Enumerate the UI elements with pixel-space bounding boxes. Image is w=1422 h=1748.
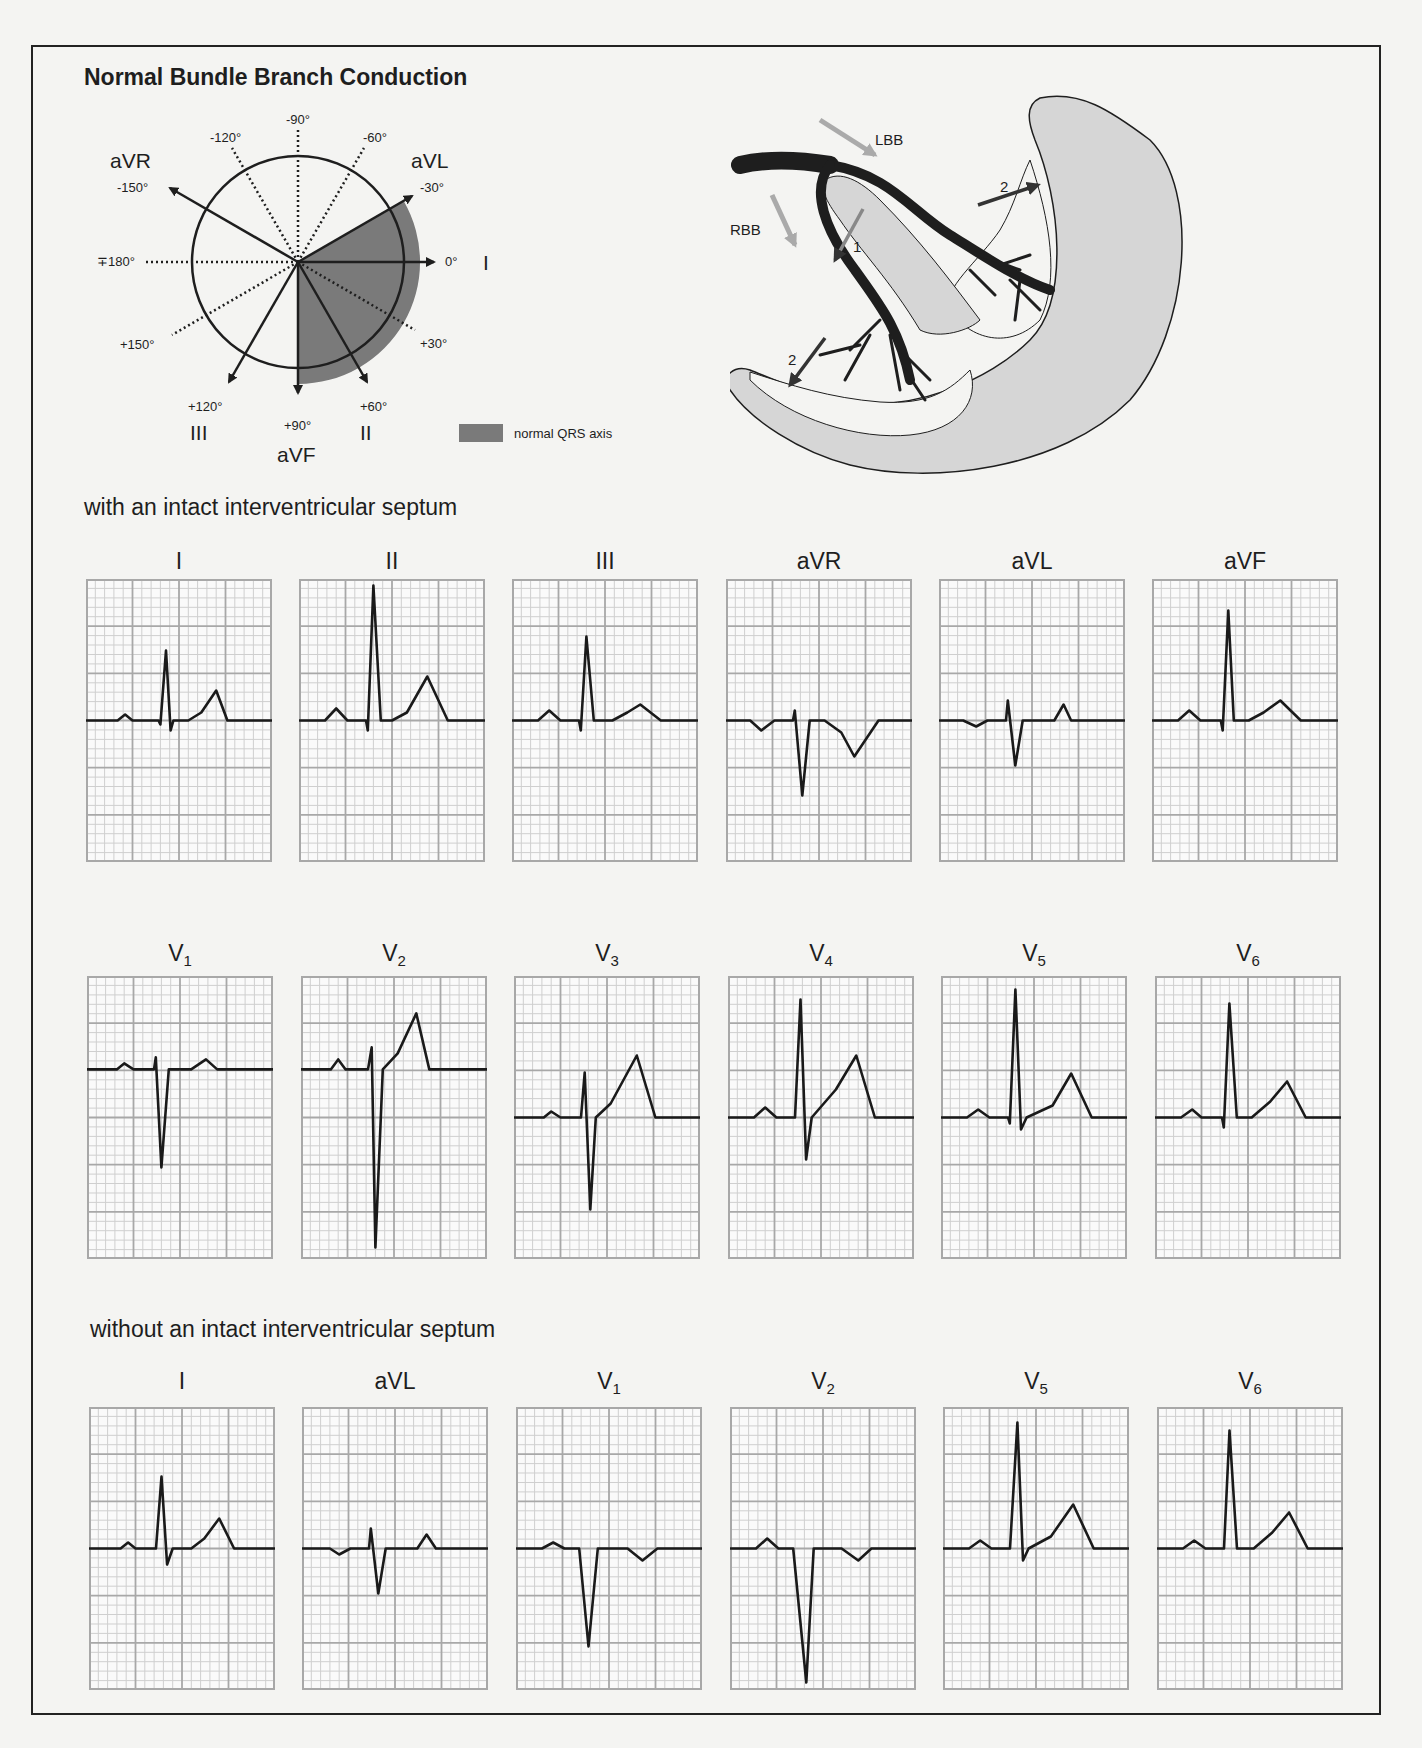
ecg-strip [514,976,700,1259]
lead-label: V3 [513,940,701,969]
lead-label: V1 [515,1368,703,1397]
ecg-strip [516,1407,702,1690]
deg-p30: +30° [420,336,447,351]
legend-label: normal QRS axis [514,426,613,441]
deg-m90: -90° [286,112,310,127]
deg-p120: +120° [188,399,222,414]
ecg-strip [1157,1407,1343,1690]
lead-label: II [298,548,486,575]
step2-right-label: 2 [1000,178,1008,195]
lead-label: III [511,548,699,575]
ecg-strip [89,1407,275,1690]
axis-lead-ii: II [360,421,372,444]
step1-label: 1 [853,238,861,255]
axis-lead-avf: aVF [277,443,316,466]
section-title-intact: with an intact interventricular septum [84,494,457,521]
ecg-strip [302,1407,488,1690]
lead-label: V4 [727,940,915,969]
lead-label: V1 [86,940,274,969]
lead-label: I [85,548,273,575]
lead-label: V6 [1154,940,1342,969]
axis-lead-i: I [483,251,489,274]
ecg-strip [299,579,485,862]
ecg-strip [1155,976,1341,1259]
deg-p90: +90° [284,418,311,433]
lead-label: aVR [725,548,913,575]
lead-label: aVL [938,548,1126,575]
figure-title: Normal Bundle Branch Conduction [84,64,467,91]
ecg-strip [939,579,1125,862]
lead-label: V2 [300,940,488,969]
rbb-label: RBB [730,221,761,238]
lbb-label: LBB [875,131,903,148]
legend-swatch [459,424,503,442]
lead-label: aVF [1151,548,1339,575]
deg-m30: -30° [420,180,444,195]
ecg-strip [943,1407,1129,1690]
lead-label: aVL [301,1368,489,1395]
ecg-strip [1152,579,1338,862]
axis-lead-avr: aVR [110,149,151,172]
deg-m150: -150° [117,180,148,195]
lead-label: V5 [942,1368,1130,1397]
section-title-without: without an intact interventricular septu… [90,1316,495,1343]
deg-m120: -120° [210,130,241,145]
ecg-strip [941,976,1127,1259]
ecg-strip [512,579,698,862]
ecg-strip [728,976,914,1259]
lead-label: V5 [940,940,1128,969]
deg-p150: +150° [120,337,154,352]
axis-lead-iii: III [190,421,208,444]
deg-p180: ∓180° [97,254,135,269]
ecg-strip [87,976,273,1259]
ecg-strip [301,976,487,1259]
lead-label: V2 [729,1368,917,1397]
ecg-strip [726,579,912,862]
deg-p60: +60° [360,399,387,414]
hexaxial-axis-diagram: -90° -120° -60° -150° -30° ∓180° 0° +150… [70,100,670,480]
deg-zero: 0° [445,254,457,269]
step2-left-label: 2 [788,351,796,368]
ecg-strip [86,579,272,862]
lead-label: I [88,1368,276,1395]
lead-label: V6 [1156,1368,1344,1397]
heart-conduction-diagram: LBB RBB 1 2 2 [730,80,1210,490]
axis-lead-avl: aVL [411,149,448,172]
ecg-strip [730,1407,916,1690]
deg-m60: -60° [363,130,387,145]
